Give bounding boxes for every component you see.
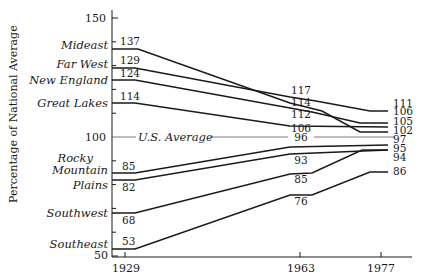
- us-average-label: U.S. Average: [138, 130, 213, 144]
- us-average-line: U.S. Average: [112, 130, 395, 144]
- value-1963-far-west: 117: [291, 84, 311, 96]
- value-1929-rocky: 85: [122, 160, 135, 172]
- label-southwest: Southwest: [47, 206, 109, 220]
- value-1929-plains: 82: [122, 181, 135, 193]
- x-tick-1929: 1929: [112, 262, 140, 275]
- series-lines: [112, 49, 388, 249]
- value-1977-southwest: 94: [393, 151, 407, 163]
- label-new-england: New England: [28, 73, 108, 87]
- y-axis-label: Percentage of National Average: [7, 25, 20, 203]
- y-tick-150: 150: [85, 12, 106, 25]
- value-1963-mideast: 114: [291, 96, 311, 108]
- label-plains: Plains: [72, 178, 108, 192]
- value-1977-southeast: 86: [393, 165, 407, 177]
- label-southeast: Southeast: [50, 237, 109, 251]
- label-mountain: Mountain: [51, 163, 108, 177]
- line-plains: [112, 150, 388, 180]
- label-great-lakes: Great Lakes: [37, 96, 108, 110]
- y-tick-100: 100: [85, 131, 106, 144]
- value-1929-great-lakes: 114: [120, 90, 140, 102]
- regional-income-chart: Percentage of National Average 150 100 5…: [0, 0, 422, 279]
- value-1963-plains: 93: [294, 154, 307, 166]
- value-1929-far-west: 129: [120, 54, 140, 66]
- value-1929-new-england: 124: [120, 67, 140, 79]
- value-1929-southwest: 68: [122, 214, 135, 226]
- x-tick-1963: 1963: [287, 262, 315, 275]
- value-1963-southeast: 76: [294, 195, 308, 207]
- label-far-west: Far West: [56, 57, 109, 71]
- x-tick-1977: 1977: [367, 262, 395, 275]
- value-1929-southeast: 53: [122, 235, 135, 247]
- value-1963-southwest: 85: [294, 173, 307, 185]
- label-mideast: Mideast: [60, 38, 108, 52]
- line-far-west: [112, 68, 388, 111]
- value-1963-new-england: 112: [291, 108, 311, 120]
- line-new-england: [112, 80, 388, 123]
- value-1963-rocky: 96: [294, 131, 308, 143]
- value-1929-mideast: 137: [120, 35, 140, 47]
- line-rocky-mountain: [112, 145, 388, 173]
